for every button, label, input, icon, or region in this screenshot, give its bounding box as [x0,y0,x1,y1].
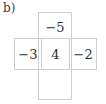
grid-cell-bottom [38,71,72,100]
grid-cell-right: −2 [69,38,97,70]
figure-container: b) −5 −3 4 −2 [0,0,106,104]
grid-cell-top: −5 [38,12,72,41]
grid-cell-center: 4 [42,38,70,70]
grid-cell-left-value: −3 [18,47,37,62]
grid-cell-center-value: 4 [51,47,59,62]
grid-cell-top-value: −5 [45,20,64,35]
grid-cell-right-value: −2 [74,47,93,62]
grid-cell-left: −3 [14,38,42,70]
figure-label: b) [3,1,15,15]
horizontal-row: −3 4 −2 [14,38,97,70]
